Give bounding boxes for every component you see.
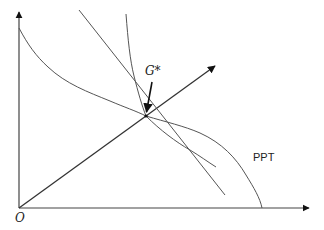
origin-label: O <box>15 211 25 225</box>
equilibrium-point <box>144 114 147 117</box>
straight-steep-line <box>79 10 225 195</box>
steep-curve <box>126 14 216 167</box>
ppt-curve-label: PPT <box>253 151 274 163</box>
equilibrium-label: G* <box>145 64 161 78</box>
ray-from-origin <box>19 66 215 208</box>
diagram-canvas <box>0 0 324 230</box>
